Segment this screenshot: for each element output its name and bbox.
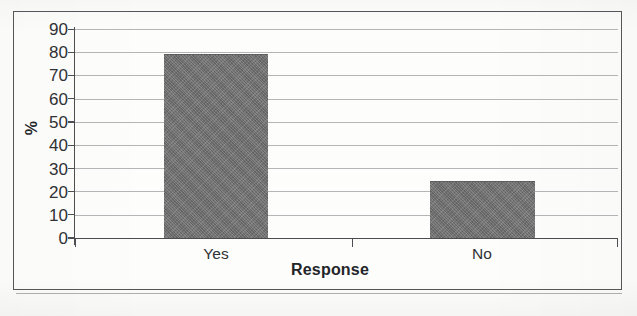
y-tick-label-0: 0: [28, 230, 68, 247]
plot-area: [75, 29, 618, 238]
y-tick-label-30: 30: [28, 161, 68, 178]
x-tick-mark-start: [75, 239, 76, 247]
y-tick-label-90: 90: [28, 21, 68, 38]
gridline-20: [75, 191, 618, 192]
bar-no[interactable]: [430, 181, 535, 238]
x-tick-mark-end: [617, 239, 618, 247]
chart-screenshot: % 90 80 70 60 50 40 30 20 10 0 Yes No Re: [0, 0, 637, 316]
y-tick-label-80: 80: [28, 44, 68, 61]
x-category-label-no: No: [422, 245, 542, 263]
gridline-30: [75, 168, 618, 169]
gridline-90: [75, 29, 618, 30]
y-tick-label-10: 10: [28, 207, 68, 224]
gridline-40: [75, 145, 618, 146]
y-tick-label-60: 60: [28, 91, 68, 108]
frame-scan-artifact-line: [16, 293, 622, 294]
x-axis-title: Response: [230, 261, 430, 279]
gridline-70: [75, 75, 618, 76]
gridline-10: [75, 215, 618, 216]
y-tick-label-20: 20: [28, 184, 68, 201]
gridline-50: [75, 122, 618, 123]
y-tick-label-40: 40: [28, 137, 68, 154]
gridline-80: [75, 52, 618, 53]
y-tick-label-50: 50: [28, 114, 68, 131]
x-axis-line: [75, 238, 618, 240]
bar-yes[interactable]: [164, 54, 268, 238]
x-tick-mark-middle: [352, 239, 353, 247]
y-tick-label-70: 70: [28, 67, 68, 84]
gridline-60: [75, 99, 618, 100]
